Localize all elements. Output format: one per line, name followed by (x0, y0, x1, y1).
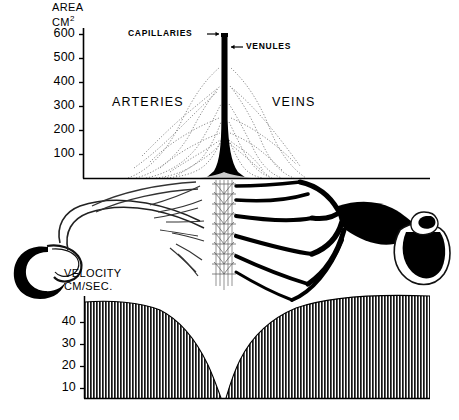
velocity-panel (80, 295, 430, 398)
velocity-right-area (226, 295, 430, 398)
capillary-bed (212, 180, 236, 290)
figure-root: AREA CM2 600 500 400 300 200 100 CAPILLA… (0, 0, 459, 420)
velocity-left-area (85, 301, 221, 398)
velocity-tick-20: 20 (44, 359, 76, 372)
velocity-tick-30: 30 (44, 337, 76, 350)
veins-region-label: VEINS (272, 96, 316, 109)
velocity-tick-40: 40 (44, 315, 76, 328)
venous-dotted-tree (229, 68, 306, 178)
area-tick-100: 100 (41, 147, 75, 160)
area-axis-title-line1: AREA (52, 2, 84, 14)
spike-base-shadow (200, 172, 252, 178)
capillaries-callout-label: CAPILLARIES (128, 29, 192, 38)
velocity-tick-10: 10 (44, 381, 76, 394)
venules-callout-label: VENULES (246, 42, 291, 51)
arterial-dotted-tree (128, 68, 221, 178)
area-tick-200: 200 (41, 123, 75, 136)
area-tick-300: 300 (41, 99, 75, 112)
arteries-region-label: ARTERIES (112, 96, 184, 109)
velocity-axis-title-line1: VELOCITY (64, 268, 122, 280)
area-tick-400: 400 (41, 75, 75, 88)
arterial-branches (150, 186, 204, 276)
area-unit-exponent: 2 (70, 14, 75, 23)
area-tick-600: 600 (41, 27, 75, 40)
capillary-spike-tip (221, 33, 228, 37)
area-tick-500: 500 (41, 51, 75, 64)
velocity-axis-title-line2: CM/SEC. (64, 281, 113, 293)
venous-branches (236, 182, 344, 300)
